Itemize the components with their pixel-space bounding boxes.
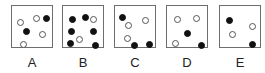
open-circle-icon [142,17,149,24]
option-b[interactable]: B [62,5,104,73]
option-a[interactable]: A [11,5,53,73]
filled-circle-icon [249,41,256,48]
option-b-box [62,5,104,48]
open-circle-icon [76,36,83,43]
option-e[interactable]: E [219,5,261,73]
filled-circle-icon [90,28,97,35]
open-circle-icon [193,15,200,22]
open-circle-icon [229,31,236,38]
filled-circle-icon [146,41,153,48]
open-circle-icon [90,16,97,23]
filled-circle-icon [68,28,75,35]
open-circle-icon [17,19,24,26]
open-circle-icon [249,23,256,30]
open-circle-icon [20,41,27,48]
option-d[interactable]: D [166,5,208,73]
filled-circle-icon [82,14,89,21]
option-c-box [114,5,156,48]
option-e-box [219,5,261,48]
option-c[interactable]: C [114,5,156,73]
filled-circle-icon [198,42,205,49]
filled-circle-icon [226,17,233,24]
filled-circle-icon [43,15,50,22]
filled-circle-icon [23,28,30,35]
option-a-box [11,5,53,48]
option-d-label: D [166,55,208,70]
open-circle-icon [33,15,40,22]
filled-circle-icon [69,16,76,23]
open-circle-icon [174,16,181,23]
option-e-label: E [219,55,261,70]
option-b-label: B [62,55,104,70]
option-c-label: C [114,55,156,70]
filled-circle-icon [119,14,126,21]
option-a-label: A [11,55,53,70]
open-circle-icon [125,22,132,29]
filled-circle-icon [131,42,138,49]
filled-circle-icon [184,30,191,37]
open-circle-icon [172,40,179,47]
option-d-box [166,5,208,48]
filled-circle-icon [92,42,99,49]
filled-circle-icon [67,40,74,47]
open-circle-icon [39,31,46,38]
open-circle-icon [124,35,131,42]
